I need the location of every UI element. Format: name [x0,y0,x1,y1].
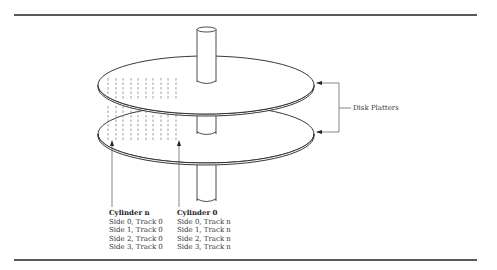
cylinder-0-line: Side 3, Track n [177,243,231,252]
cylinder-n-line: Side 0, Track 0 [109,218,163,227]
disk-platters-label: Disk Platters [353,104,399,112]
cylinder-n-line: Side 2, Track 0 [109,235,163,244]
cylinder-n-line: Side 3, Track 0 [109,243,163,252]
disk-platters-diagram [0,0,497,270]
cylinder-n-title: Cylinder n [109,209,163,218]
disk-platters-callout [317,83,351,132]
spindle-top [197,27,216,84]
cylinder-0-line: Side 2, Track n [177,235,231,244]
spindle-bottom [197,160,216,202]
cylinder-0-label: Cylinder 0 Side 0, Track n Side 1, Track… [177,209,231,252]
arrowhead-upper-platter [316,81,322,85]
cylinder-0-line: Side 1, Track n [177,226,231,235]
cylinder-0-line: Side 0, Track n [177,218,231,227]
arrowhead-lower-platter [316,130,322,134]
cylinder-n-label: Cylinder n Side 0, Track 0 Side 1, Track… [109,209,163,252]
cylinder-0-title: Cylinder 0 [177,209,231,218]
cylinder-n-line: Side 1, Track 0 [109,226,163,235]
